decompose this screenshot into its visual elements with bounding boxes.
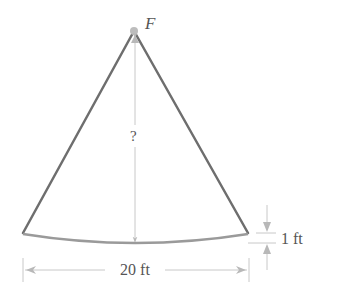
right-cable-line bbox=[134, 31, 248, 233]
arrow-down-icon bbox=[263, 222, 271, 232]
span-label: 20 ft bbox=[120, 261, 150, 278]
pivot-point bbox=[130, 27, 138, 35]
apex-label: F bbox=[144, 14, 156, 33]
height-unknown-label: ? bbox=[130, 128, 137, 144]
left-cable-line bbox=[23, 31, 134, 233]
pendulum-diagram: F ? 1 ft 20 ft bbox=[0, 0, 338, 294]
arrow-up-icon bbox=[263, 244, 271, 254]
sag-label: 1 ft bbox=[281, 230, 303, 247]
diagram-svg: F ? 1 ft 20 ft bbox=[0, 0, 338, 294]
